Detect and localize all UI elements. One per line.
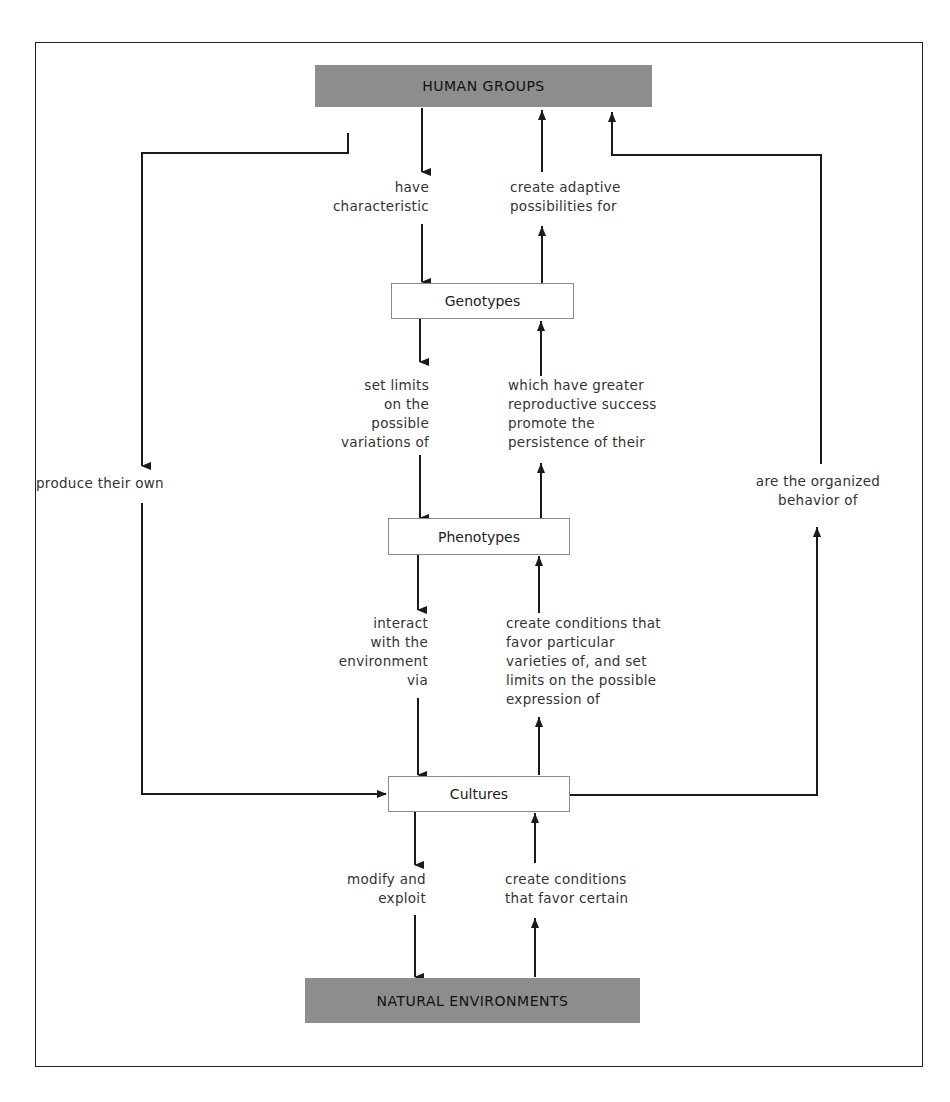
edge-label-modify-exploit: modify and exploit <box>347 870 426 908</box>
node-natural-environments: NATURAL ENVIRONMENTS <box>305 978 640 1023</box>
node-genotypes-label: Genotypes <box>445 293 520 309</box>
edge-label-organized-behavior: are the organized behavior of <box>743 472 893 510</box>
node-human-groups-label: HUMAN GROUPS <box>422 78 545 94</box>
edge-label-produce-their-own: produce their own <box>36 474 164 493</box>
node-phenotypes: Phenotypes <box>388 518 570 555</box>
node-cultures: Cultures <box>388 776 570 812</box>
edge-label-reproductive-success: which have greater reproductive success … <box>508 376 657 452</box>
edge-label-create-adaptive: create adaptive possibilities for <box>510 178 621 216</box>
node-phenotypes-label: Phenotypes <box>438 529 520 545</box>
edge-label-create-conditions-certain: create conditions that favor certain <box>505 870 628 908</box>
node-human-groups: HUMAN GROUPS <box>315 65 652 107</box>
node-cultures-label: Cultures <box>450 786 508 802</box>
edge-label-have-characteristic: have characteristic <box>333 178 429 216</box>
edge-label-create-conditions-favor: create conditions that favor particular … <box>506 614 661 709</box>
node-natural-environments-label: NATURAL ENVIRONMENTS <box>377 993 569 1009</box>
node-genotypes: Genotypes <box>391 283 574 319</box>
edge-label-interact: interact with the environment via <box>339 614 428 690</box>
edge-label-set-limits: set limits on the possible variations of <box>341 376 429 452</box>
